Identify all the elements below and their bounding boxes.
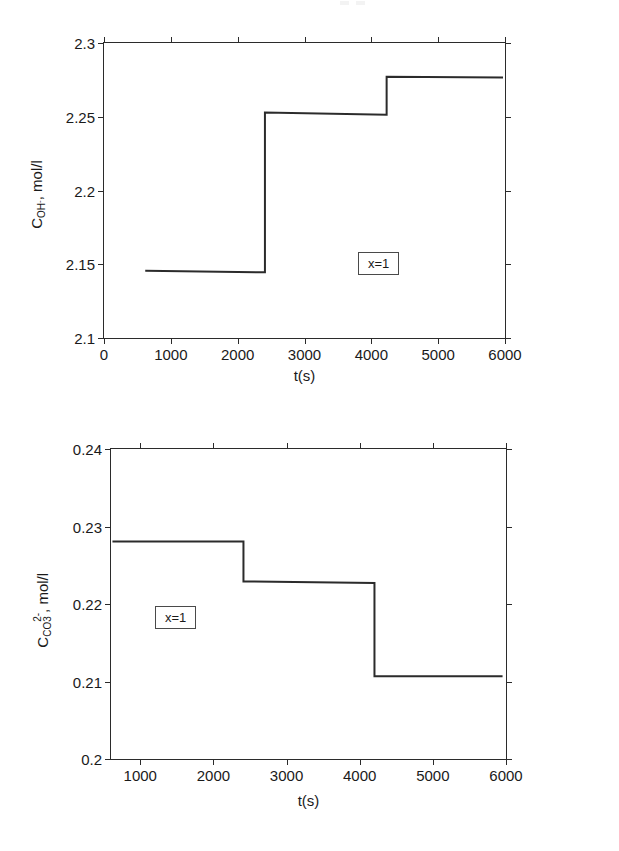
x-tick-top-0 [104, 338, 105, 344]
x-tick-top-6 [505, 338, 506, 344]
x-tick-top-top-4 [371, 37, 372, 43]
y-axis-title-bottom: CCO2-3, mol/l [33, 545, 54, 675]
x-tick-bottom-2 [287, 759, 288, 765]
y-tick-label-bottom-1: 0.21 [73, 673, 102, 690]
y-tick-top-1 [98, 264, 104, 265]
x-tick-bottom-5 [506, 759, 507, 765]
y-tick-label-bottom-0: 0.2 [81, 751, 102, 768]
plot-area-top: 2.12.152.22.252.301000200030004000500060… [103, 42, 506, 339]
y-tick-top-3 [98, 117, 104, 118]
y-tick-label-top-0: 2.1 [74, 330, 95, 347]
y-tick-label-top-4: 2.3 [74, 35, 95, 52]
x-tick-top-top-1 [171, 37, 172, 43]
y-tick-right-top-1 [505, 264, 511, 265]
x-tick-label-top-0: 0 [100, 346, 108, 363]
x-tick-bottom-0 [140, 759, 141, 765]
data-series-top [104, 43, 505, 338]
annotation-box-bottom: x=1 [155, 606, 196, 629]
x-tick-label-top-2: 2000 [221, 346, 254, 363]
y-tick-label-top-3: 2.25 [66, 108, 95, 125]
y-axis-title-bottom-subscript: CO [42, 622, 53, 637]
x-tick-top-bottom-5 [506, 443, 507, 449]
y-tick-top-2 [98, 191, 104, 192]
y-tick-bottom-3 [105, 527, 111, 528]
annotation-box-top: x=1 [358, 252, 399, 275]
x-tick-label-bottom-3: 4000 [343, 767, 376, 784]
x-axis-title-bottom: t(s) [110, 792, 507, 809]
plot-area-bottom: 0.20.210.220.230.24100020003000400050006… [110, 448, 507, 760]
x-tick-top-bottom-3 [360, 443, 361, 449]
y-tick-right-top-2 [505, 191, 511, 192]
y-axis-title-bottom-charge: 2-3 [33, 613, 52, 622]
x-tick-top-bottom-2 [287, 443, 288, 449]
x-tick-top-top-5 [438, 37, 439, 43]
x-axis-title-top: t(s) [103, 367, 506, 384]
y-tick-right-bottom-1 [506, 682, 512, 683]
y-tick-right-bottom-2 [506, 604, 512, 605]
chart-panel-bottom: 0.20.210.220.230.24100020003000400050006… [0, 400, 619, 851]
x-tick-top-2 [238, 338, 239, 344]
y-tick-right-top-3 [505, 117, 511, 118]
chart-panel-top: 2.12.152.22.252.301000200030004000500060… [0, 0, 619, 400]
x-tick-top-top-2 [238, 37, 239, 43]
y-axis-title-top-subscript: OH- [36, 200, 47, 218]
x-tick-label-top-4: 4000 [355, 346, 388, 363]
x-tick-bottom-4 [433, 759, 434, 765]
y-tick-bottom-2 [105, 604, 111, 605]
y-tick-label-bottom-2: 0.22 [73, 596, 102, 613]
y-tick-right-bottom-4 [506, 449, 512, 450]
y-tick-label-top-2: 2.2 [74, 182, 95, 199]
x-tick-label-top-3: 3000 [288, 346, 321, 363]
x-tick-bottom-1 [213, 759, 214, 765]
x-tick-top-bottom-1 [213, 443, 214, 449]
y-tick-bottom-4 [105, 449, 111, 450]
y-tick-right-bottom-3 [506, 527, 512, 528]
y-axis-title-top: COH-, mol/l [28, 140, 47, 250]
figure-canvas: 2.12.152.22.252.301000200030004000500060… [0, 0, 619, 851]
x-tick-top-1 [171, 338, 172, 344]
x-tick-top-bottom-4 [433, 443, 434, 449]
y-tick-top-4 [98, 43, 104, 44]
x-tick-top-top-3 [305, 37, 306, 43]
x-tick-label-top-6: 6000 [488, 346, 521, 363]
x-tick-label-bottom-4: 5000 [416, 767, 449, 784]
x-tick-top-top-6 [505, 37, 506, 43]
x-tick-label-top-1: 1000 [154, 346, 187, 363]
y-tick-label-bottom-3: 0.23 [73, 518, 102, 535]
x-tick-label-bottom-0: 1000 [124, 767, 157, 784]
series-polyline-top [145, 77, 503, 273]
y-tick-label-top-1: 2.15 [66, 256, 95, 273]
y-tick-bottom-0 [105, 759, 111, 760]
y-tick-bottom-1 [105, 682, 111, 683]
x-tick-top-bottom-0 [140, 443, 141, 449]
x-tick-label-bottom-5: 6000 [489, 767, 522, 784]
x-tick-label-bottom-2: 3000 [270, 767, 303, 784]
x-tick-top-top-0 [104, 37, 105, 43]
x-tick-top-3 [305, 338, 306, 344]
x-tick-top-4 [371, 338, 372, 344]
y-tick-right-top-4 [505, 43, 511, 44]
y-tick-label-bottom-4: 0.24 [73, 441, 102, 458]
x-tick-label-bottom-1: 2000 [197, 767, 230, 784]
x-tick-label-top-5: 5000 [421, 346, 454, 363]
x-tick-bottom-3 [360, 759, 361, 765]
x-tick-top-5 [438, 338, 439, 344]
data-series-bottom [111, 449, 506, 759]
